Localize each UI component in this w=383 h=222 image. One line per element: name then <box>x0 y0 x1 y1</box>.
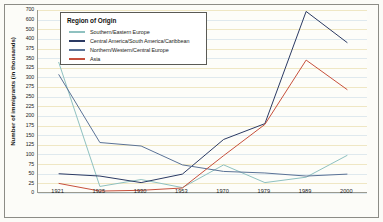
legend-item[interactable]: Asia <box>67 55 201 64</box>
legend-item-label: Central America/South America/Caribbean <box>90 38 189 44</box>
x-tick-label: 1989 <box>285 188 325 194</box>
y-tick-label: 150 <box>4 133 34 138</box>
y-tick-label: 250 <box>4 94 34 99</box>
y-tick-label: 125 <box>4 142 34 147</box>
x-tick-label: 1970 <box>203 188 243 194</box>
x-tick-label: 1953 <box>161 188 201 194</box>
y-tick-label: 225 <box>4 104 34 109</box>
legend-item[interactable]: Central America/South America/Caribbean <box>67 37 201 46</box>
x-tick-label: 1930 <box>120 188 160 194</box>
y-tick-label: 375 <box>4 46 34 51</box>
legend-item[interactable]: Southern/Eastern Europe <box>67 28 201 37</box>
y-tick-label: 500 <box>4 27 34 32</box>
y-tick-label: 175 <box>4 123 34 128</box>
legend: Region of Origin Southern/Eastern Europe… <box>60 12 207 65</box>
legend-color-swatch <box>69 58 85 59</box>
y-tick-label: 700 <box>4 7 34 12</box>
x-tick-label: 1921 <box>38 188 78 194</box>
y-tick-label: 275 <box>4 84 34 89</box>
y-tick-label: 50 <box>4 171 34 176</box>
y-tick-label: 100 <box>4 152 34 157</box>
legend-color-swatch <box>69 31 85 32</box>
y-tick-label: 200 <box>4 113 34 118</box>
x-tick-label: 2000 <box>326 188 366 194</box>
legend-color-swatch <box>69 49 85 50</box>
y-tick-label: 400 <box>4 36 34 41</box>
series-line <box>59 60 348 191</box>
legend-title: Region of Origin <box>67 17 201 24</box>
y-tick-label: 0 <box>4 190 34 195</box>
legend-item-label: Northern/Western/Central Europe <box>90 47 169 53</box>
y-tick-label: 75 <box>4 162 34 167</box>
series-line <box>59 74 348 176</box>
legend-color-swatch <box>69 40 85 41</box>
y-tick-label: 300 <box>4 75 34 80</box>
y-axis-title-text: Number of immigrants (in thousands) <box>9 37 16 146</box>
legend-item[interactable]: Northern/Western/Central Europe <box>67 46 201 55</box>
y-tick-label: 600 <box>4 17 34 22</box>
legend-rows: Southern/Eastern EuropeCentral America/S… <box>67 28 201 64</box>
y-tick-label: 350 <box>4 56 34 61</box>
series-line <box>59 62 348 188</box>
x-tick-label: 1925 <box>79 188 119 194</box>
y-tick-label: 25 <box>4 181 34 186</box>
legend-item-label: Asia <box>90 56 100 62</box>
immigration-line-chart: Number of immigrants (in thousands) 7006… <box>0 0 383 222</box>
legend-item-label: Southern/Eastern Europe <box>90 29 150 35</box>
x-tick-label: 1979 <box>244 188 284 194</box>
y-tick-label: 325 <box>4 65 34 70</box>
